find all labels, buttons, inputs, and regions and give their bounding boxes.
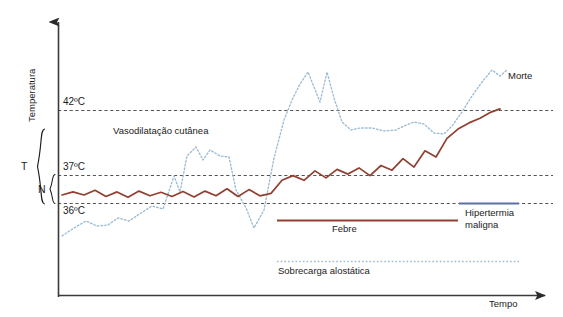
temperature-chart: Temperatura 42ºC 37ºC 36ºC T N Vasodilat… bbox=[0, 0, 563, 317]
legend-label-hipertermia-maligna: Hipertermiamaligna bbox=[465, 207, 514, 230]
series-febre bbox=[62, 109, 500, 197]
legend-label-sobrecarga-alostatica: Sobrecarga alostática bbox=[278, 266, 370, 277]
annotation-morte: Morte bbox=[508, 71, 532, 82]
legend-label-hipertermia-line1: Hipertermia bbox=[465, 207, 514, 218]
legend-label-febre: Febre bbox=[332, 224, 357, 235]
y-tick-label-42c: 42ºC bbox=[63, 96, 85, 108]
y-axis-title: Temperatura bbox=[27, 69, 38, 122]
y-tick-label-37c: 37ºC bbox=[63, 161, 85, 173]
x-axis-title: Tempo bbox=[489, 299, 518, 310]
bracket-label-n: N bbox=[38, 183, 46, 195]
annotation-vasodilatacao-cutanea: Vasodilatação cutânea bbox=[113, 126, 208, 137]
bracket-n bbox=[50, 175, 55, 204]
legend-label-hipertermia-line2: maligna bbox=[465, 219, 498, 230]
bracket-label-t: T bbox=[21, 160, 27, 172]
y-tick-label-36c: 36ºC bbox=[63, 205, 85, 217]
